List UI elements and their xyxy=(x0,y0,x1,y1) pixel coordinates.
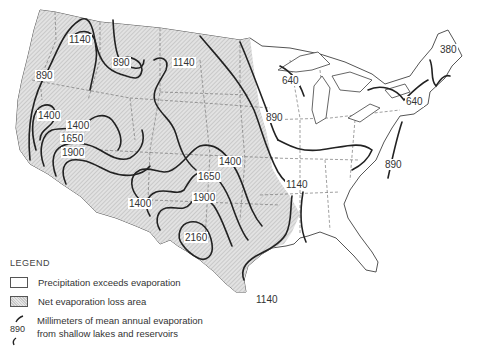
svg-text:890: 890 xyxy=(385,159,402,170)
svg-text:640: 640 xyxy=(406,96,423,107)
isoline-label: 1650 xyxy=(197,171,221,182)
isoline-label: 640 xyxy=(405,96,424,107)
svg-text:1900: 1900 xyxy=(62,147,85,158)
white-box-swatch-icon xyxy=(10,277,28,288)
svg-text:890: 890 xyxy=(266,112,283,123)
isoline-label: 1650 xyxy=(60,133,84,144)
isoline-label: 1400 xyxy=(37,110,61,121)
isoline-label: 890 xyxy=(265,112,284,123)
isoline-label: 890 xyxy=(384,159,403,170)
isoline-symbol-icon: 890 xyxy=(10,314,28,344)
legend-item-isoline: 890 Millimeters of mean annual evaporati… xyxy=(10,314,220,344)
svg-text:1400: 1400 xyxy=(219,156,242,167)
svg-text:1650: 1650 xyxy=(61,133,84,144)
legend-label-line1: Millimeters of mean annual evaporation xyxy=(37,314,203,327)
svg-text:1140: 1140 xyxy=(69,34,91,45)
legend-title: LEGEND xyxy=(10,258,220,268)
svg-text:2160: 2160 xyxy=(185,232,208,243)
isoline-symbol-value: 890 xyxy=(10,324,25,334)
svg-text:890: 890 xyxy=(113,57,130,68)
isoline-label: 1900 xyxy=(192,192,216,203)
legend-label-line2: from shallow lakes and reservoirs xyxy=(37,327,203,340)
legend-item-net-evaporation: Net evaporation loss area xyxy=(10,295,220,308)
svg-text:1140: 1140 xyxy=(173,57,195,68)
isoline-label: 1400 xyxy=(66,120,90,131)
isoline-label: 890 xyxy=(35,70,54,81)
svg-text:1650: 1650 xyxy=(198,171,221,182)
isoline-label: 1400 xyxy=(218,156,242,167)
svg-text:1400: 1400 xyxy=(129,198,152,209)
isoline-label: 380 xyxy=(439,44,458,55)
svg-text:1140: 1140 xyxy=(286,179,308,190)
isoline-label: 1140 xyxy=(285,179,309,190)
svg-text:1400: 1400 xyxy=(38,110,61,121)
isoline-label: 640 xyxy=(281,75,300,86)
isoline-label: 890 xyxy=(112,57,131,68)
isoline-label: 1400 xyxy=(128,198,152,209)
legend-label: Net evaporation loss area xyxy=(38,295,146,308)
svg-text:890: 890 xyxy=(36,70,53,81)
isoline-label: 1140 xyxy=(172,57,196,68)
isoline-label: 1140 xyxy=(255,294,279,305)
legend: LEGEND Precipitation exceeds evaporation… xyxy=(10,258,220,350)
hatched-box-swatch-icon xyxy=(10,296,28,307)
isoline-label: 1900 xyxy=(61,147,85,158)
svg-text:640: 640 xyxy=(282,75,299,86)
svg-text:1900: 1900 xyxy=(193,192,216,203)
svg-text:1400: 1400 xyxy=(67,120,90,131)
svg-text:1140: 1140 xyxy=(256,294,278,305)
legend-label: Millimeters of mean annual evaporation f… xyxy=(37,314,203,340)
svg-text:380: 380 xyxy=(440,44,457,55)
legend-label: Precipitation exceeds evaporation xyxy=(38,276,181,289)
isoline-label: 1140 xyxy=(68,34,92,45)
legend-item-precipitation: Precipitation exceeds evaporation xyxy=(10,276,220,289)
isoline-label: 2160 xyxy=(184,232,208,243)
